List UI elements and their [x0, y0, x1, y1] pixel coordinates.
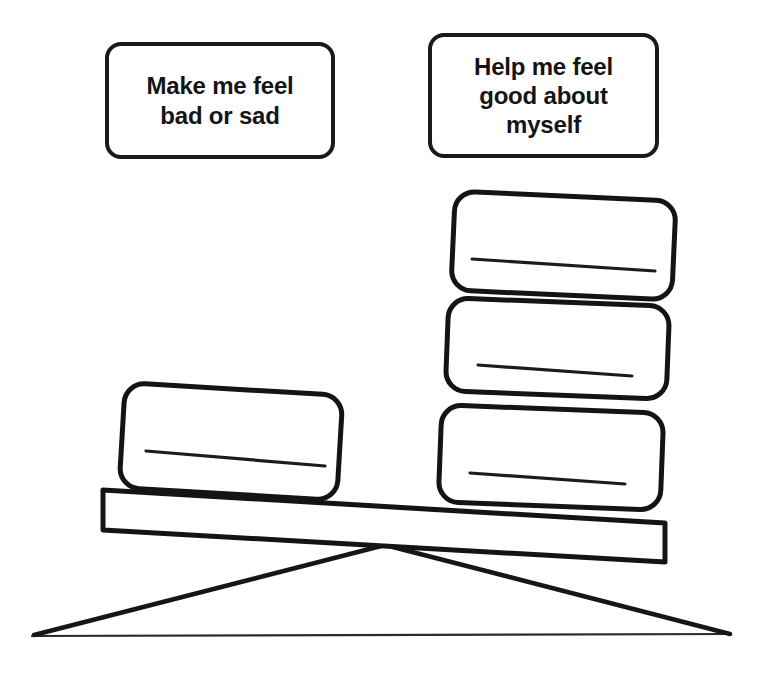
header-label-negative[interactable]: Make me feel bad or sad: [105, 42, 335, 159]
left-card-1-outline: [119, 383, 343, 501]
right-card-bottom-outline: [438, 405, 664, 510]
header-label-negative-text: Make me feel bad or sad: [146, 71, 293, 130]
header-label-positive-text: Help me feel good about myself: [474, 52, 613, 140]
left-card-1[interactable]: [119, 383, 343, 501]
right-card-top[interactable]: [451, 191, 676, 300]
diagram-canvas: Balance scale weighing people who make m…: [0, 0, 770, 679]
ground-line: [32, 634, 731, 636]
header-label-positive[interactable]: Help me feel good about myself: [428, 33, 659, 158]
right-card-middle[interactable]: [445, 298, 669, 399]
right-card-middle-outline: [445, 298, 669, 399]
right-card-bottom[interactable]: [438, 405, 664, 510]
right-card-top-outline: [451, 191, 676, 300]
